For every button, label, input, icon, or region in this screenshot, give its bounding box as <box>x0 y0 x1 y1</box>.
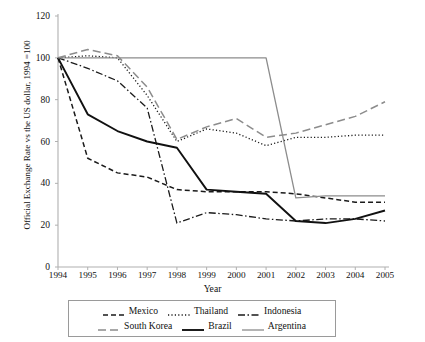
x-tick-label: 2005 <box>365 270 405 281</box>
series-line-brazil <box>58 58 385 223</box>
chart-legend: MexicoThailandIndonesia South KoreaBrazi… <box>68 300 336 337</box>
legend-label: Brazil <box>208 320 231 331</box>
legend-item-argentina[interactable]: Argentina <box>242 320 306 331</box>
legend-swatch-mexico <box>103 310 125 320</box>
legend-label: Argentina <box>268 320 306 331</box>
axis-lines <box>58 14 389 267</box>
legend-line-sample <box>103 306 125 316</box>
legend-label: Thailand <box>194 305 228 316</box>
chart-page: 020406080100120 Official Exchange Rate v… <box>0 0 425 342</box>
legend-line-sample <box>98 321 120 331</box>
y-axis-title: Official Exchange Rate vs the US dollar,… <box>22 10 32 260</box>
legend-item-south-korea[interactable]: South Korea <box>98 320 172 331</box>
legend-label: Mexico <box>129 305 158 316</box>
tick-marks <box>55 16 385 270</box>
plot-area: 020406080100120 Official Exchange Rate v… <box>0 0 425 290</box>
legend-line-sample <box>182 321 204 331</box>
series-line-mexico <box>58 58 385 202</box>
series-line-indonesia <box>58 58 385 223</box>
legend-label: South Korea <box>124 320 172 331</box>
legend-row: South KoreaBrazilArgentina <box>73 318 331 333</box>
legend-item-brazil[interactable]: Brazil <box>182 320 231 331</box>
series-lines <box>58 49 385 223</box>
series-line-thailand <box>58 56 385 146</box>
legend-swatch-thailand <box>168 310 190 320</box>
legend-line-sample <box>238 306 260 316</box>
chart-canvas <box>0 0 425 290</box>
x-axis-title: Year <box>0 283 425 294</box>
legend-line-sample <box>242 321 264 331</box>
legend-item-thailand[interactable]: Thailand <box>168 305 228 316</box>
series-line-argentina <box>58 58 385 198</box>
legend-swatch-south-korea <box>98 325 120 335</box>
legend-swatch-indonesia <box>238 310 260 320</box>
legend-swatch-brazil <box>182 325 204 335</box>
legend-swatch-argentina <box>242 325 264 335</box>
legend-item-indonesia[interactable]: Indonesia <box>238 305 301 316</box>
legend-label: Indonesia <box>264 305 301 316</box>
legend-row: MexicoThailandIndonesia <box>73 303 331 318</box>
legend-line-sample <box>168 306 190 316</box>
legend-item-mexico[interactable]: Mexico <box>103 305 158 316</box>
